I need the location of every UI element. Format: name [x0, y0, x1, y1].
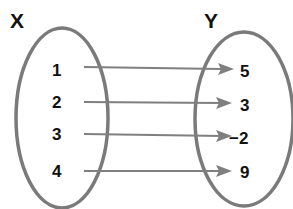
range-element: −2	[229, 129, 248, 148]
mapping-arrow-4	[84, 165, 232, 177]
range-set-label: Y	[204, 9, 218, 32]
mapping-arrow-1	[84, 63, 234, 75]
domain-set-label: X	[10, 9, 24, 32]
range-element: 3	[240, 96, 249, 115]
range-element: 5	[240, 62, 249, 81]
mapping-diagram: X Y 1 2 3 4 5 3 −2 9	[0, 0, 293, 209]
domain-element: 4	[52, 162, 62, 181]
domain-element: 1	[52, 61, 61, 80]
domain-element: 2	[52, 93, 61, 112]
domain-element: 3	[52, 125, 61, 144]
domain-oval	[16, 28, 108, 208]
range-element: 9	[240, 163, 249, 182]
